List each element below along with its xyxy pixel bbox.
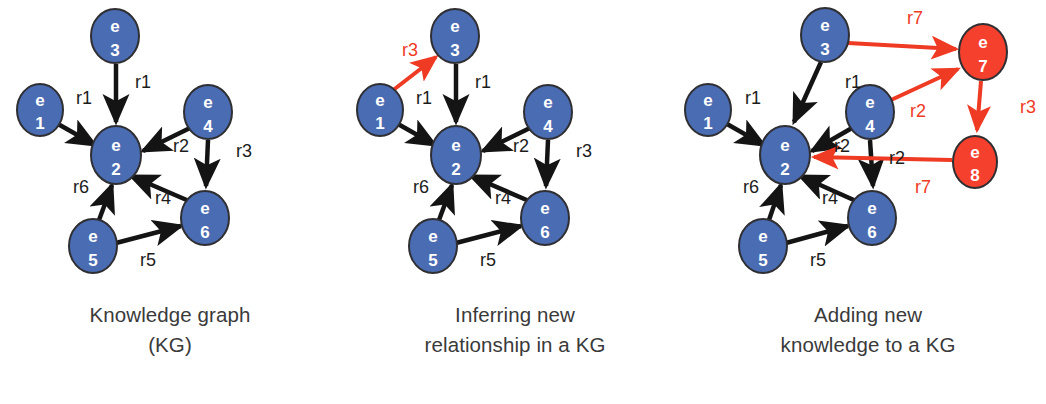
relation-label-e7-e8-new: r3 bbox=[1020, 97, 1036, 117]
node-e4[interactable]: e 4 bbox=[846, 85, 894, 139]
edge-e1-e2 bbox=[727, 124, 764, 145]
relation-label-e6-e2: r4 bbox=[495, 188, 511, 208]
relation-label-e4-e2: r2 bbox=[173, 136, 189, 156]
node-e1-number: 1 bbox=[35, 114, 44, 133]
edge-e1-e3-inferred bbox=[392, 57, 436, 91]
panel-adding-new-knowledge: e 1 e 2 e 3 e 4 bbox=[690, 0, 1046, 404]
node-e6-number: 6 bbox=[200, 223, 209, 242]
node-e6[interactable]: e 6 bbox=[181, 191, 229, 245]
node-e2-letter: e bbox=[780, 136, 789, 155]
caption-inferring-new-relationship: Inferring new relationship in a KG bbox=[340, 300, 690, 360]
node-e3[interactable]: e 3 bbox=[431, 9, 479, 63]
node-e8-number: 8 bbox=[970, 166, 979, 185]
caption-line-2: (KG) bbox=[0, 330, 340, 360]
edge-e4-e6 bbox=[870, 140, 873, 186]
relation-label-e4-e6: r3 bbox=[576, 141, 592, 161]
edge-e3-e7-new bbox=[848, 43, 956, 49]
relation-label-e1-e2: r1 bbox=[416, 88, 432, 108]
node-e4-number: 4 bbox=[865, 117, 875, 136]
node-e6-letter: e bbox=[867, 199, 876, 218]
relation-label-e4-e7-new: r2 bbox=[910, 101, 926, 121]
node-e8[interactable]: e 8 bbox=[953, 136, 997, 188]
node-e4-letter: e bbox=[543, 93, 552, 112]
edge-e7-e8-new bbox=[977, 81, 981, 130]
node-e2[interactable]: e 2 bbox=[760, 126, 810, 184]
panel-inferring-new-relationship: e 1 e 2 e 3 e 4 bbox=[340, 0, 690, 404]
relation-label-e3-e2: r1 bbox=[475, 72, 491, 92]
caption-line-1: Knowledge graph bbox=[0, 300, 340, 330]
caption-line-1: Inferring new bbox=[340, 300, 690, 330]
caption-line-2: knowledge to a KG bbox=[690, 330, 1046, 360]
node-e2[interactable]: e 2 bbox=[91, 126, 141, 184]
node-e3-letter: e bbox=[820, 16, 829, 35]
relation-label-e3-e7-new: r7 bbox=[907, 8, 923, 28]
edge-e1-e2 bbox=[398, 124, 435, 145]
relation-label-e3-e2: r1 bbox=[135, 72, 151, 92]
caption-knowledge-graph: Knowledge graph (KG) bbox=[0, 300, 340, 360]
relation-label-e1-e2: r1 bbox=[76, 88, 92, 108]
node-e4-letter: e bbox=[203, 93, 212, 112]
node-e2[interactable]: e 2 bbox=[431, 126, 481, 184]
node-e3[interactable]: e 3 bbox=[801, 8, 849, 62]
relation-label-e4-e6: r2 bbox=[889, 148, 905, 168]
node-e5[interactable]: e 5 bbox=[69, 219, 117, 273]
node-e4[interactable]: e 4 bbox=[184, 85, 232, 139]
relation-label-e5-e6: r5 bbox=[810, 250, 826, 270]
node-e5-number: 5 bbox=[428, 251, 437, 270]
node-e7[interactable]: e 7 bbox=[959, 24, 1007, 80]
knowledge-graph-figure: e 1 e 2 e 3 e 4 bbox=[0, 0, 1046, 404]
node-e2-number: 2 bbox=[780, 160, 789, 179]
edge-e5-e2 bbox=[439, 185, 452, 220]
graph-knowledge-graph: e 1 e 2 e 3 e 4 bbox=[0, 0, 340, 300]
node-e3-letter: e bbox=[110, 17, 119, 36]
relation-label-e4-e2: r2 bbox=[834, 136, 850, 156]
edge-e5-e6 bbox=[116, 226, 181, 243]
node-e3[interactable]: e 3 bbox=[91, 9, 139, 63]
node-e1[interactable]: e 1 bbox=[685, 84, 731, 136]
node-e1-number: 1 bbox=[703, 114, 712, 133]
node-e6-letter: e bbox=[540, 199, 549, 218]
panel-knowledge-graph: e 1 e 2 e 3 e 4 bbox=[0, 0, 340, 404]
node-e7-number: 7 bbox=[978, 57, 987, 76]
node-e6[interactable]: e 6 bbox=[848, 191, 896, 245]
node-e1[interactable]: e 1 bbox=[357, 84, 403, 136]
node-e5-letter: e bbox=[88, 227, 97, 246]
node-e8-letter: e bbox=[970, 143, 979, 162]
node-e6-number: 6 bbox=[867, 223, 876, 242]
relation-label-e3-e2: r1 bbox=[845, 72, 861, 92]
node-e3-number: 3 bbox=[450, 41, 459, 60]
graph-adding-new-knowledge: e 1 e 2 e 3 e 4 bbox=[690, 0, 1046, 300]
node-e4[interactable]: e 4 bbox=[524, 85, 572, 139]
edge-e5-e6 bbox=[786, 226, 848, 243]
relation-label-e5-e2: r6 bbox=[743, 177, 759, 197]
node-group: e 1 e 2 e 3 e 4 bbox=[357, 9, 572, 273]
node-e7-letter: e bbox=[978, 33, 987, 52]
edge-e5-e2 bbox=[99, 185, 112, 220]
caption-line-1: Adding new bbox=[690, 300, 1046, 330]
node-e2-number: 2 bbox=[451, 160, 460, 179]
node-e1-letter: e bbox=[375, 91, 384, 110]
node-e6-letter: e bbox=[200, 199, 209, 218]
node-e2-letter: e bbox=[451, 136, 460, 155]
node-e6-number: 6 bbox=[540, 223, 549, 242]
relation-label-e5-e6: r5 bbox=[140, 250, 156, 270]
node-e3-number: 3 bbox=[110, 41, 119, 60]
graph-inferring-new-relationship: e 1 e 2 e 3 e 4 bbox=[340, 0, 690, 300]
node-e4-number: 4 bbox=[543, 117, 553, 136]
relation-label-e5-e6: r5 bbox=[480, 250, 496, 270]
node-e5[interactable]: e 5 bbox=[739, 219, 787, 273]
relation-label-e5-e2: r6 bbox=[413, 177, 429, 197]
node-e2-letter: e bbox=[111, 136, 120, 155]
caption-adding-new-knowledge: Adding new knowledge to a KG bbox=[690, 300, 1046, 360]
node-e5[interactable]: e 5 bbox=[409, 219, 457, 273]
relation-label-e4-e2: r2 bbox=[513, 136, 529, 156]
node-e6[interactable]: e 6 bbox=[521, 191, 569, 245]
relation-label-e6-e2: r4 bbox=[822, 188, 838, 208]
node-e3-letter: e bbox=[450, 17, 459, 36]
node-e5-letter: e bbox=[428, 227, 437, 246]
node-e2-number: 2 bbox=[111, 160, 120, 179]
node-e1-letter: e bbox=[35, 91, 44, 110]
node-e5-letter: e bbox=[758, 227, 767, 246]
node-e1[interactable]: e 1 bbox=[17, 84, 63, 136]
relation-label-e5-e2: r6 bbox=[73, 177, 89, 197]
